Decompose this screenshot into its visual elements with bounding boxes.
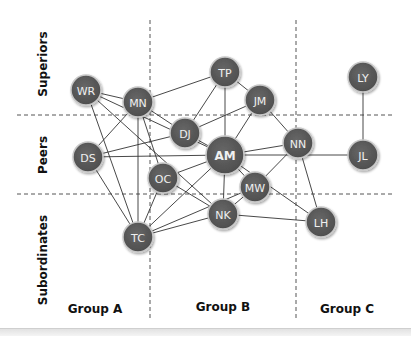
node-wr[interactable]: WR <box>71 75 101 105</box>
node-label: TC <box>130 232 145 245</box>
grid-dividers <box>17 20 395 320</box>
node-tc[interactable]: TC <box>123 222 153 252</box>
node-label: NN <box>290 138 306 151</box>
node-label: WR <box>77 85 96 98</box>
row-label-subordinates: Subordinates <box>36 210 50 310</box>
node-ds[interactable]: DS <box>73 142 103 172</box>
node-jl[interactable]: JL <box>348 140 378 170</box>
node-label: LH <box>314 217 328 230</box>
node-dj[interactable]: DJ <box>170 118 200 148</box>
node-oc[interactable]: OC <box>148 163 178 193</box>
col-label-group-b: Group B <box>178 300 268 314</box>
node-tp[interactable]: TP <box>210 57 240 87</box>
node-label: JM <box>253 95 267 108</box>
node-nn[interactable]: NN <box>283 128 313 158</box>
node-label: OC <box>155 173 172 186</box>
edge-ds-am <box>88 155 225 157</box>
nodes: WRMNTPJMDJAMNNLYJLDSOCMWNKLHTC <box>71 57 378 252</box>
col-label-group-a: Group A <box>50 302 140 316</box>
row-label-peers: Peers <box>36 105 50 205</box>
node-label: MW <box>245 182 265 195</box>
node-label: TP <box>217 67 232 80</box>
node-mn[interactable]: MN <box>123 87 153 117</box>
node-label: LY <box>357 72 369 85</box>
node-mw[interactable]: MW <box>240 172 270 202</box>
node-label: JL <box>357 150 368 163</box>
node-label: DS <box>80 152 95 165</box>
col-label-group-c: Group C <box>302 302 392 316</box>
node-lh[interactable]: LH <box>306 207 336 237</box>
node-jm[interactable]: JM <box>245 85 275 115</box>
node-label: NK <box>215 209 231 222</box>
node-nk[interactable]: NK <box>208 199 238 229</box>
node-am[interactable]: AM <box>206 136 244 174</box>
node-label: AM <box>214 149 235 163</box>
edge-wr-am <box>86 90 225 155</box>
row-label-superiors: Superiors <box>36 14 50 114</box>
node-label: DJ <box>179 128 191 141</box>
bottom-bar <box>0 328 411 336</box>
node-label: MN <box>129 97 147 110</box>
node-ly[interactable]: LY <box>348 62 378 92</box>
